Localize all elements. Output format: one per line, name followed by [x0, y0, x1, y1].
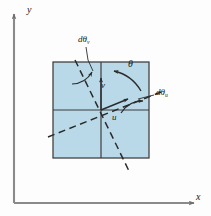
- dtheta-v-label: dθv: [78, 35, 89, 44]
- figure-canvas: y x θ v u dθv dθu: [0, 0, 211, 216]
- dtheta-v-label-prefix: dθ: [78, 34, 87, 44]
- dtheta-u-label-prefix: dθ: [156, 87, 165, 97]
- dtheta-v-label-subscript: v: [87, 39, 89, 45]
- y-axis-label: y: [27, 5, 31, 15]
- dtheta-u-label: dθu: [156, 88, 168, 97]
- theta-label: θ: [128, 59, 133, 69]
- x-axis-label: x: [196, 192, 200, 202]
- figure-vector-graphics: [0, 0, 211, 216]
- v-axis-label: v: [101, 81, 105, 90]
- dtheta-u-label-subscript: u: [165, 92, 168, 98]
- u-axis-label: u: [112, 113, 117, 122]
